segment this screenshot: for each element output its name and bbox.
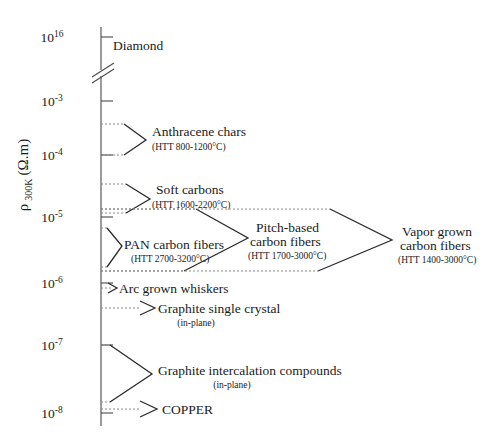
entry-label-pitch-2: carbon fibers: [250, 234, 321, 249]
entry-copper: COPPER: [101, 401, 213, 417]
entry-pan-carbon-fibers: PAN carbon fibers (HTT 2700-3200°C): [101, 228, 224, 267]
tick-label-1e-7: 10-7: [41, 337, 63, 353]
entry-label-anthracene: Anthracene chars: [152, 124, 246, 139]
entry-sub-anthracene: (HTT 800-1200°C): [152, 142, 226, 153]
entry-label-copper: COPPER: [162, 402, 213, 417]
entry-graphite-intercalation-compounds: Graphite intercalation compounds (in-pla…: [101, 345, 342, 402]
tick-label-1e-6: 10-6: [41, 275, 63, 291]
entry-label-gic: Graphite intercalation compounds: [158, 363, 342, 378]
tick-label-1e-5: 10-5: [41, 209, 63, 225]
entry-sub-gsc: (in-plane): [177, 318, 214, 329]
tick-label-1e-8: 10-8: [41, 405, 63, 421]
resistivity-chart: 1016 10-3 10-4 10-5 10-6 10-7 10-8 ρ300K…: [0, 0, 503, 444]
entry-label-gsc: Graphite single crystal: [158, 301, 280, 316]
entry-label-vapor-2: carbon fibers: [400, 238, 471, 253]
axis-break-icon: [92, 63, 114, 83]
bracket-gic: [110, 345, 152, 402]
tick-label-1e16: 1016: [41, 29, 64, 45]
entry-arc-grown-whiskers: Arc grown whiskers: [101, 281, 228, 296]
entry-anthracene-chars: Anthracene chars (HTT 800-1200°C): [101, 124, 246, 155]
entry-label-pan: PAN carbon fibers: [124, 237, 224, 252]
y-axis-title: ρ300K(Ω.m): [15, 139, 34, 211]
entry-sub-pitch: (HTT 1700-3000°C): [248, 251, 326, 262]
entry-soft-carbons: Soft carbons (HTT 1600-2200°C): [101, 182, 230, 213]
entry-label-diamond: Diamond: [113, 38, 163, 53]
entry-label-pitch-1: Pitch-based: [256, 220, 319, 235]
entry-graphite-single-crystal: Graphite single crystal (in-plane): [101, 301, 280, 329]
entry-sub-vapor: (HTT 1400-3000°C): [398, 255, 476, 266]
entry-label-soft-carbons: Soft carbons: [156, 182, 224, 197]
bracket-copper: [140, 401, 157, 417]
bracket-anthracene: [124, 124, 146, 155]
entry-sub-gic: (in-plane): [213, 380, 250, 391]
y-axis: [92, 27, 114, 426]
bracket-vapor: [318, 209, 392, 271]
tick-label-1e-3: 10-3: [41, 93, 63, 109]
bracket-gsc: [140, 301, 155, 315]
y-tick-labels: 1016 10-3 10-4 10-5 10-6 10-7 10-8: [41, 29, 64, 421]
entry-label-vapor-1: Vapor grown: [402, 224, 472, 239]
bracket-pan: [107, 228, 122, 267]
tick-label-1e-4: 10-4: [41, 147, 63, 163]
entry-label-arc: Arc grown whiskers: [119, 281, 228, 296]
